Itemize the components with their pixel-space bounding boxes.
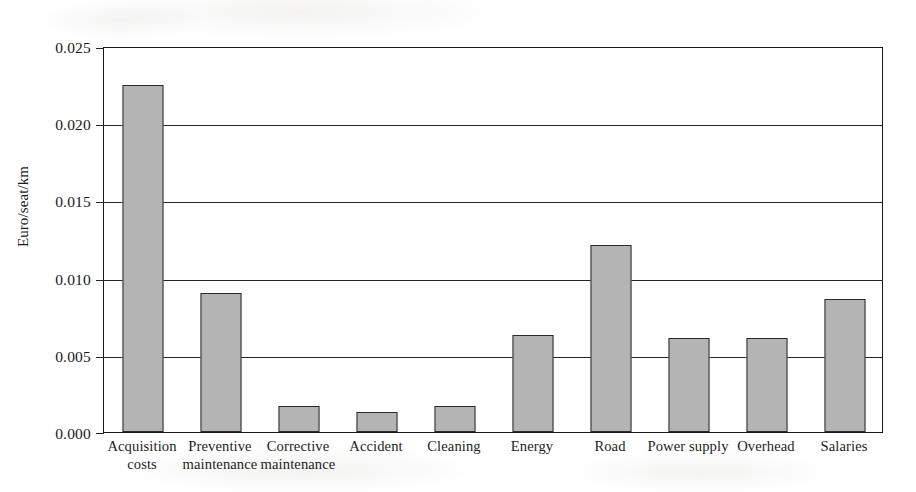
x-axis-label: Cleaning <box>409 437 499 455</box>
x-axis-label-line: costs <box>97 455 187 473</box>
bar <box>747 338 788 432</box>
y-axis-tick-label: 0.015 <box>55 193 91 211</box>
y-axis-tick-label: 0.000 <box>55 425 91 443</box>
y-axis-tick <box>96 48 104 49</box>
bar-slot <box>494 48 572 432</box>
bar <box>201 293 242 432</box>
x-axis-label: Overhead <box>721 437 811 455</box>
x-axis-label-line: Salaries <box>799 437 889 455</box>
y-axis-tick <box>96 357 104 358</box>
x-axis-label-line: Road <box>565 437 655 455</box>
y-axis-tick <box>96 433 104 434</box>
bar-slot <box>182 48 260 432</box>
y-axis-tick-label: 0.010 <box>55 271 91 289</box>
x-axis-label-line: Acquisition <box>97 437 187 455</box>
x-axis-label: Acquisitioncosts <box>97 437 187 473</box>
x-axis-label: Correctivemaintenance <box>253 437 343 473</box>
x-axis-label-line: Power supply <box>643 437 733 455</box>
x-axis-label-line: Energy <box>487 437 577 455</box>
x-axis-label-line: Preventive <box>175 437 265 455</box>
bar-slot <box>104 48 182 432</box>
bar-slot <box>650 48 728 432</box>
bar-slot <box>806 48 884 432</box>
x-axis-label: Road <box>565 437 655 455</box>
y-axis-tick-label: 0.005 <box>55 348 91 366</box>
bars-group <box>104 48 882 432</box>
x-axis-labels-group: AcquisitioncostsPreventivemaintenanceCor… <box>103 437 883 489</box>
x-axis-label: Preventivemaintenance <box>175 437 265 473</box>
bar <box>591 245 632 432</box>
y-axis-tick-label: 0.025 <box>55 39 91 57</box>
bar <box>669 338 710 432</box>
bar <box>357 412 398 432</box>
x-axis-label: Energy <box>487 437 577 455</box>
bar-slot <box>572 48 650 432</box>
bar <box>279 406 320 432</box>
x-axis-label-line: Accident <box>331 437 421 455</box>
y-axis-tick-label: 0.020 <box>55 116 91 134</box>
y-axis-tick <box>96 280 104 281</box>
bar <box>123 85 164 432</box>
y-axis-tick <box>96 125 104 126</box>
x-axis-label-line: maintenance <box>253 455 343 473</box>
x-axis-label-line: Corrective <box>253 437 343 455</box>
x-axis-label-line: Cleaning <box>409 437 499 455</box>
bar-slot <box>728 48 806 432</box>
x-axis-label: Salaries <box>799 437 889 455</box>
y-axis-tick <box>96 202 104 203</box>
bar-chart-figure: Euro/seat/km 0.0000.0050.0100.0150.0200.… <box>0 0 916 492</box>
bar <box>825 299 866 432</box>
y-axis-title: Euro/seat/km <box>15 132 32 282</box>
x-axis-label: Power supply <box>643 437 733 455</box>
x-axis-label-line: maintenance <box>175 455 265 473</box>
bar <box>513 335 554 432</box>
x-axis-label-line: Overhead <box>721 437 811 455</box>
bar-slot <box>416 48 494 432</box>
bar <box>435 406 476 432</box>
bar-slot <box>260 48 338 432</box>
x-axis-label: Accident <box>331 437 421 455</box>
bar-slot <box>338 48 416 432</box>
plot-area: 0.0000.0050.0100.0150.0200.025 <box>103 47 883 433</box>
